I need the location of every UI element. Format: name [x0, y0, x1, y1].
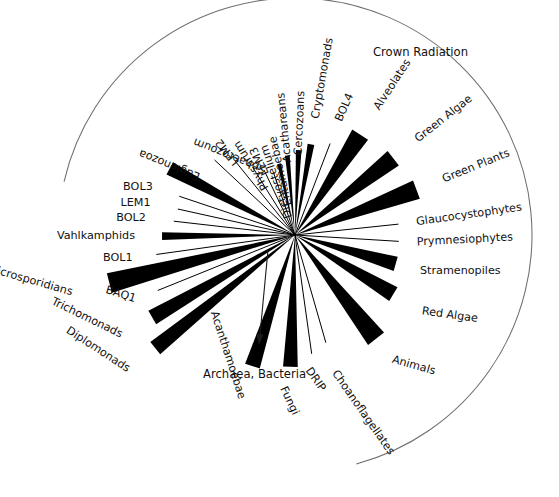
- taxon-label-choanoflagellates: Choanoflagellates: [329, 367, 397, 457]
- taxon-label-bol4: BOL4: [332, 91, 356, 123]
- taxon-label-vahlkamphids: Vahlkamphids: [57, 229, 135, 242]
- taxon-label-green-plants: Green Plants: [440, 146, 511, 185]
- taxon-label-microsporidians: Microsporidians: [0, 262, 74, 299]
- taxon-label-drip: DRIP: [303, 365, 329, 394]
- branch-fungi: [283, 235, 298, 367]
- phylogenetic-tree-figure: CryptomonadsCercozoansAcathareansEntamoe…: [0, 0, 559, 497]
- taxon-label-glaucocystophytes: Glaucocystophytes: [415, 200, 522, 228]
- tree-canvas: CryptomonadsCercozoansAcathareansEntamoe…: [0, 0, 559, 497]
- taxon-label-euglenozoa: Euglenozoa: [137, 147, 202, 183]
- taxon-label-green-algae: Green Algae: [412, 92, 474, 145]
- taxon-label-stramenopiles: Stramenopiles: [420, 264, 501, 277]
- outgroup-label: Archaea, Bacteria: [203, 367, 306, 381]
- crown-radiation-label: Crown Radiation: [373, 45, 468, 59]
- taxon-label-acanthamoebae: Acanthamoebae: [208, 310, 249, 401]
- taxon-label-lem1: LEM1: [120, 196, 150, 209]
- taxon-label-red-algae: Red Algae: [421, 304, 479, 325]
- taxon-label-animals: Animals: [391, 353, 438, 378]
- taxon-label-bol2: BOL2: [116, 211, 146, 224]
- taxon-label-alveolates: Alveolates: [371, 56, 414, 112]
- branch-vahlkamphids: [162, 232, 295, 240]
- taxon-label-cercozoans: Cercozoans: [291, 90, 307, 155]
- taxon-label-fungi: Fungi: [277, 384, 302, 417]
- taxon-label-prymnesiophytes: Prymnesiophytes: [416, 230, 513, 248]
- branch-red-algae: [295, 235, 397, 301]
- taxon-label-layer: CryptomonadsCercozoansAcathareansEntamoe…: [0, 37, 523, 458]
- taxon-label-bol1: BOL1: [103, 251, 133, 264]
- taxon-label-baq1: BAQ1: [104, 283, 138, 305]
- annotation-layer: Crown RadiationArchaea, Bacteria: [203, 45, 468, 381]
- taxon-label-cryptomonads: Cryptomonads: [309, 37, 336, 120]
- branch-cercozoans: [295, 150, 302, 235]
- taxon-label-bol3: BOL3: [123, 180, 153, 193]
